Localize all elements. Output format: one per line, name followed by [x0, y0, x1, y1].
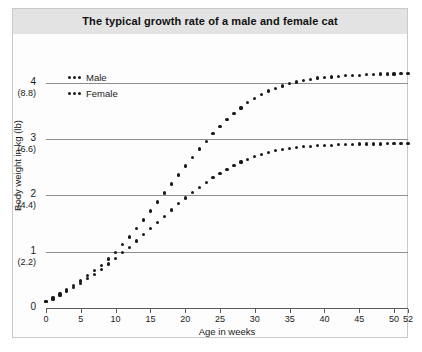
data-point-female	[191, 191, 194, 194]
x-tick-label: 52	[396, 314, 420, 324]
data-point-female	[274, 149, 277, 152]
data-point-female	[288, 147, 291, 150]
x-tick-label: 15	[138, 314, 162, 324]
data-point-female	[386, 142, 389, 145]
data-point-male	[177, 173, 180, 176]
data-point-male	[316, 76, 319, 79]
data-point-female	[260, 153, 263, 156]
data-point-male	[100, 264, 103, 267]
data-point-male	[253, 97, 256, 100]
data-point-female	[51, 297, 54, 300]
data-point-male	[198, 147, 201, 150]
data-point-male	[281, 84, 284, 87]
data-point-male	[323, 76, 326, 79]
data-point-male	[330, 75, 333, 78]
x-tick-label: 25	[208, 314, 232, 324]
x-tick	[81, 309, 82, 313]
data-point-female	[267, 151, 270, 154]
data-point-female	[149, 227, 152, 230]
x-tick-label: 40	[312, 314, 336, 324]
data-point-male	[295, 80, 298, 83]
data-point-male	[337, 75, 340, 78]
x-tick-label: 20	[173, 314, 197, 324]
data-point-female	[239, 160, 242, 163]
chart-title: The typical growth rate of a male and fe…	[13, 9, 407, 34]
legend-dot	[73, 76, 76, 79]
x-tick	[290, 309, 291, 313]
data-point-female	[198, 186, 201, 189]
data-point-male	[351, 74, 354, 77]
legend-dot	[68, 76, 71, 79]
x-axis-label: Age in weeks	[46, 326, 408, 337]
x-tick	[324, 309, 325, 313]
legend-dot	[78, 76, 81, 79]
data-point-female	[379, 142, 382, 145]
data-point-male	[379, 72, 382, 75]
data-point-female	[100, 268, 103, 271]
data-point-female	[184, 196, 187, 199]
x-tick	[150, 309, 151, 313]
x-tick	[185, 309, 186, 313]
data-point-female	[351, 143, 354, 146]
data-point-female	[309, 145, 312, 148]
legend-label: Male	[86, 72, 107, 83]
x-tick	[220, 309, 221, 313]
data-point-female	[372, 142, 375, 145]
data-point-male	[344, 74, 347, 77]
data-point-female	[44, 300, 47, 303]
data-point-male	[365, 73, 368, 76]
y-axis-label: Body weight in kg (lb)	[12, 71, 23, 261]
data-point-male	[218, 125, 221, 128]
data-point-female	[358, 142, 361, 145]
legend-marker-icon	[68, 92, 81, 95]
data-point-female	[128, 246, 131, 249]
data-point-female	[302, 145, 305, 148]
data-point-female	[93, 273, 96, 276]
data-point-female	[170, 208, 173, 211]
x-tick	[359, 309, 360, 313]
data-point-female	[121, 251, 124, 254]
data-point-female	[392, 142, 395, 145]
data-point-male	[386, 72, 389, 75]
data-point-male	[309, 78, 312, 81]
data-point-male	[156, 200, 159, 203]
data-point-female	[399, 142, 402, 145]
data-point-female	[65, 290, 68, 293]
x-tick	[394, 309, 395, 313]
x-tick	[408, 309, 409, 313]
x-tick	[46, 309, 47, 313]
data-point-male	[274, 87, 277, 90]
data-point-female	[253, 155, 256, 158]
data-point-male	[232, 112, 235, 115]
data-point-female	[205, 181, 208, 184]
data-point-male	[128, 235, 131, 238]
data-point-male	[288, 82, 291, 85]
data-point-female	[295, 146, 298, 149]
data-point-male	[392, 72, 395, 75]
data-point-female	[406, 142, 409, 145]
data-point-female	[58, 294, 61, 297]
y-tick-label: 0	[10, 301, 36, 312]
chart-figure: The typical growth rate of a male and fe…	[0, 0, 422, 352]
gridline	[46, 195, 408, 196]
x-tick-label: 30	[243, 314, 267, 324]
data-point-female	[232, 164, 235, 167]
gridline	[46, 139, 408, 140]
data-point-female	[281, 148, 284, 151]
data-point-female	[323, 144, 326, 147]
data-point-female	[365, 142, 368, 145]
data-point-female	[142, 233, 145, 236]
data-point-female	[344, 143, 347, 146]
data-point-female	[225, 168, 228, 171]
data-point-male	[211, 132, 214, 135]
data-point-male	[170, 182, 173, 185]
legend-marker-icon	[68, 76, 81, 79]
legend-dot	[73, 92, 76, 95]
data-point-male	[267, 89, 270, 92]
x-tick-label: 45	[347, 314, 371, 324]
gridline	[46, 252, 408, 253]
x-tick-label: 35	[278, 314, 302, 324]
x-tick	[255, 309, 256, 313]
data-point-male	[135, 227, 138, 230]
x-tick-label: 10	[104, 314, 128, 324]
